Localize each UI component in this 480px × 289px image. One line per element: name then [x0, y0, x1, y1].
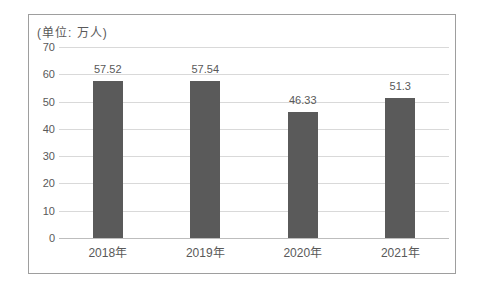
- bar-2019年: [190, 81, 220, 238]
- bar-2018年: [93, 81, 123, 238]
- x-category-label-2019年: 2019年: [165, 246, 245, 260]
- unit-label: (单位: 万人): [37, 23, 108, 40]
- value-label-2019年: 57.54: [175, 63, 235, 76]
- y-tick-label-30: 30: [29, 149, 55, 163]
- x-axis-line: [59, 238, 449, 239]
- y-tick-label-10: 10: [29, 204, 55, 218]
- x-category-label-2018年: 2018年: [68, 246, 148, 260]
- y-tick-label-40: 40: [29, 122, 55, 136]
- y-tick-label-20: 20: [29, 176, 55, 190]
- value-label-2020年: 46.33: [273, 94, 333, 107]
- y-tick-label-70: 70: [29, 40, 55, 54]
- y-tick-label-50: 50: [29, 95, 55, 109]
- value-label-2021年: 51.3: [370, 80, 430, 93]
- chart-frame: (单位: 万人) 01020304050607057.522018年57.542…: [28, 14, 456, 274]
- bar-2021年: [385, 98, 415, 238]
- bar-2020年: [288, 112, 318, 238]
- x-category-label-2020年: 2020年: [263, 246, 343, 260]
- value-label-2018年: 57.52: [78, 63, 138, 76]
- x-category-label-2021年: 2021年: [360, 246, 440, 260]
- y-tick-label-60: 60: [29, 67, 55, 81]
- gridline-70: [59, 47, 449, 48]
- y-tick-label-0: 0: [29, 231, 55, 245]
